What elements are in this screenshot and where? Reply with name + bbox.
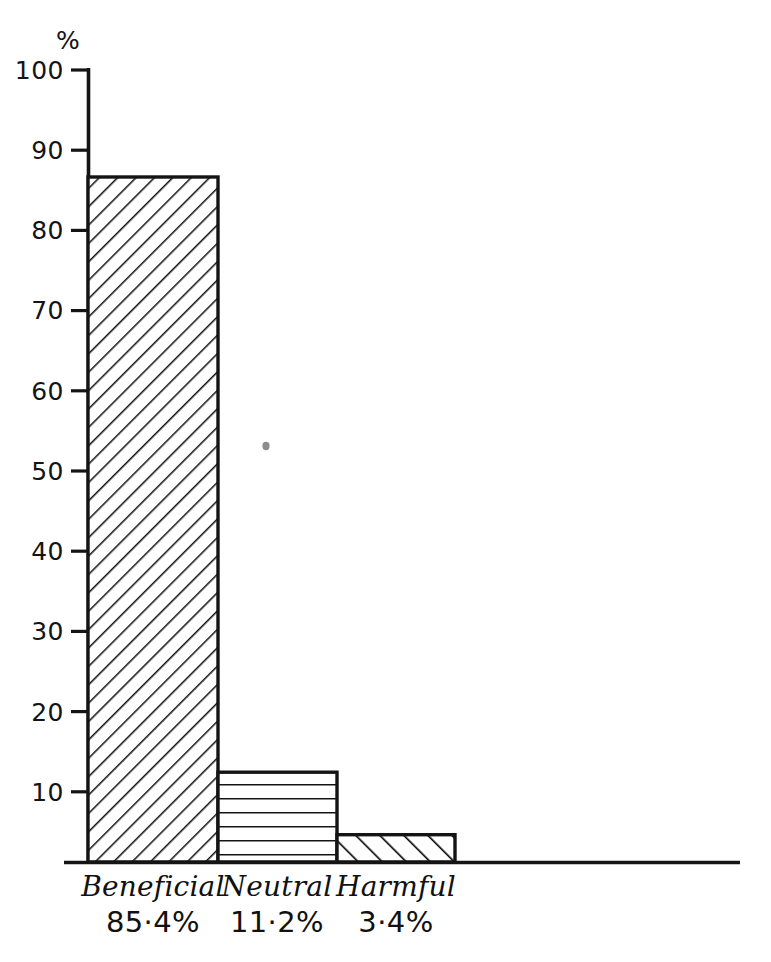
category-value-beneficial: 85·4% bbox=[106, 905, 200, 939]
y-tick-label-90: 90 bbox=[31, 136, 64, 165]
bar-harmful bbox=[337, 835, 455, 862]
scan-artifact-speck bbox=[262, 442, 269, 450]
bar-rect-neutral bbox=[218, 772, 337, 862]
category-name-beneficial: Beneficial bbox=[80, 870, 224, 903]
y-tick-label-30: 30 bbox=[31, 617, 64, 646]
x-axis-category-labels: Beneficial 85·4% Neutral 11·2% Harmful 3… bbox=[80, 870, 456, 939]
chart-canvas: 100 90 80 70 60 50 40 30 20 10 % bbox=[0, 0, 771, 962]
category-name-harmful: Harmful bbox=[335, 870, 456, 903]
y-tick-label-80: 80 bbox=[31, 216, 64, 245]
category-value-neutral: 11·2% bbox=[230, 905, 324, 939]
y-tick-label-50: 50 bbox=[31, 457, 64, 486]
y-tick-label-70: 70 bbox=[31, 296, 64, 325]
y-tick-label-60: 60 bbox=[31, 377, 64, 406]
y-axis-unit-label: % bbox=[56, 26, 80, 55]
category-label-neutral: Neutral 11·2% bbox=[221, 870, 333, 939]
bar-chart-figure: 100 90 80 70 60 50 40 30 20 10 % bbox=[0, 0, 771, 962]
y-tick-label-100: 100 bbox=[15, 56, 64, 85]
y-tick-label-20: 20 bbox=[31, 698, 64, 727]
category-name-neutral: Neutral bbox=[221, 870, 333, 903]
bar-neutral bbox=[218, 772, 337, 862]
bar-rect-harmful bbox=[337, 835, 455, 862]
y-tick-label-10: 10 bbox=[31, 778, 64, 807]
bar-rect-beneficial bbox=[88, 177, 218, 862]
y-tick-label-40: 40 bbox=[31, 537, 64, 566]
category-value-harmful: 3·4% bbox=[358, 905, 433, 939]
bar-beneficial bbox=[88, 177, 218, 862]
